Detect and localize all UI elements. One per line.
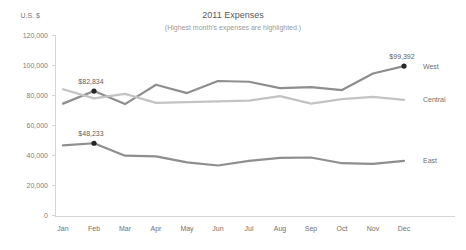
x-label-aug: Aug — [274, 225, 287, 233]
chart-subtitle: (Highest month's expenses are highlighte… — [165, 24, 301, 32]
y-tick-label: 0 — [44, 212, 48, 219]
chart-title: 2011 Expenses — [202, 10, 264, 20]
x-label-jun: Jun — [212, 225, 223, 232]
east-feb-highlight-dot — [91, 141, 96, 146]
series-layer — [63, 66, 404, 165]
chart-legend: WestCentralEast — [423, 63, 446, 165]
series-line-east — [63, 143, 404, 165]
x-label-jan: Jan — [57, 225, 68, 232]
west-feb-highlight-label: $82,834 — [78, 78, 103, 85]
y-tick-label: 100,000 — [23, 62, 48, 69]
west-feb-highlight-dot — [91, 88, 96, 93]
legend-label-east[interactable]: East — [423, 157, 437, 164]
x-label-sep: Sep — [305, 225, 318, 233]
x-label-feb: Feb — [88, 225, 100, 232]
x-label-nov: Nov — [367, 225, 380, 232]
x-label-oct: Oct — [337, 225, 348, 232]
y-tick-label: 80,000 — [27, 92, 49, 99]
legend-label-central[interactable]: Central — [423, 96, 446, 103]
highlight-layer: $82,834$99,392$48,233 — [78, 53, 414, 146]
y-tick-label: 120,000 — [23, 32, 48, 39]
y-tick-label: 40,000 — [27, 152, 49, 159]
expenses-line-chart: 2011 Expenses (Highest month's expenses … — [0, 0, 466, 250]
chart-canvas: 2011 Expenses (Highest month's expenses … — [0, 0, 466, 250]
series-line-central — [63, 89, 404, 103]
y-axis-title: U.S. $ — [21, 12, 41, 19]
west-dec-highlight-label: $99,392 — [389, 53, 414, 60]
east-feb-highlight-label: $48,233 — [78, 130, 103, 137]
x-axis-labels: JanFebMarAprMayJunJulAugSepOctNovDec — [57, 225, 410, 233]
x-label-may: May — [180, 225, 194, 233]
x-label-dec: Dec — [398, 225, 411, 232]
x-label-apr: Apr — [151, 225, 163, 233]
y-tick-label: 60,000 — [27, 122, 49, 129]
west-dec-highlight-dot — [401, 63, 406, 68]
x-label-jul: Jul — [245, 225, 254, 232]
legend-label-west[interactable]: West — [423, 63, 439, 70]
x-label-mar: Mar — [119, 225, 132, 232]
y-axis-ticks: 120,000 100,000 80,000 60,000 40,000 20,… — [23, 32, 55, 219]
y-tick-label: 20,000 — [27, 182, 49, 189]
